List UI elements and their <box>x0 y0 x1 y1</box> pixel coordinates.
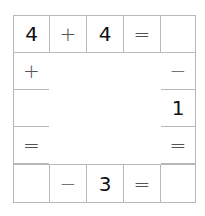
answer-cell-r4c0[interactable] <box>13 164 50 203</box>
cell-r4c2: 3 <box>86 164 124 203</box>
cell-r2c4: 1 <box>160 89 196 127</box>
answer-cell-r0c4[interactable] <box>160 15 196 53</box>
cell-r4c3: = <box>123 164 161 203</box>
cell-r0c1: + <box>49 15 87 53</box>
answer-cell-r2c0[interactable] <box>13 89 50 127</box>
answer-cell-r4c4[interactable] <box>160 164 196 203</box>
cell-r4c1: − <box>49 164 87 203</box>
cell-r1c0: + <box>13 52 50 90</box>
center-blank <box>49 52 161 165</box>
puzzle-grid: 4 + 4 = + = − 1 = − 3 = <box>13 15 196 203</box>
cell-r3c0: = <box>13 126 50 164</box>
cell-r0c2: 4 <box>86 15 124 53</box>
cell-r0c0: 4 <box>13 15 50 53</box>
cell-r3c4: = <box>160 126 196 164</box>
cell-r0c3: = <box>123 15 161 53</box>
cell-r1c4: − <box>160 52 196 90</box>
